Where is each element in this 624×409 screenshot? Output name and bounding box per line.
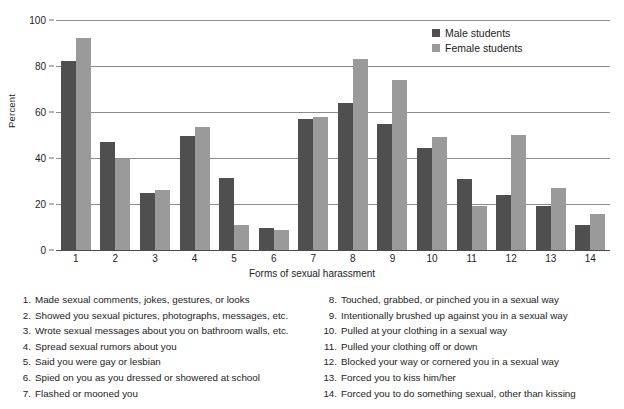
category-key-item: 8.Touched, grabbed, or pinched you in a … xyxy=(320,292,624,308)
x-axis-tick-label: 12 xyxy=(491,253,531,264)
category-key-item: 5.Said you were gay or lesbian xyxy=(14,354,312,370)
bar xyxy=(180,136,195,250)
category-key-number: 11. xyxy=(320,339,337,355)
bar xyxy=(61,61,76,250)
plot-area: Percent 020406080100 1234567891011121314… xyxy=(0,0,624,290)
category-key-text: Spread sexual rumors about you xyxy=(35,339,312,355)
bar-group xyxy=(175,20,215,250)
category-key-item: 12.Blocked your way or cornered you in a… xyxy=(320,354,624,370)
grouped-bar-chart: Percent 020406080100 1234567891011121314… xyxy=(0,0,624,409)
bar xyxy=(298,119,313,250)
x-axis-tick-labels: 1234567891011121314 xyxy=(56,253,610,264)
bar-group xyxy=(56,20,96,250)
legend-label: Male students xyxy=(445,27,510,39)
category-key-number: 10. xyxy=(320,323,337,339)
bar xyxy=(575,225,590,250)
bar-group xyxy=(293,20,333,250)
y-axis-tick-mark xyxy=(49,158,54,159)
y-axis-tick-mark xyxy=(49,204,54,205)
x-axis-tick-label: 5 xyxy=(214,253,254,264)
x-axis-tick-label: 2 xyxy=(96,253,136,264)
category-key-number: 1. xyxy=(14,292,31,308)
bar xyxy=(313,117,328,250)
category-key-number: 14. xyxy=(320,386,337,402)
y-axis-tick-mark xyxy=(49,66,54,67)
bar xyxy=(234,225,249,250)
bar-group xyxy=(135,20,175,250)
bar xyxy=(496,195,511,250)
bar xyxy=(115,159,130,250)
x-axis-tick-label: 3 xyxy=(135,253,175,264)
bar-group xyxy=(452,20,492,250)
bar xyxy=(472,206,487,250)
x-axis-tick-label: 11 xyxy=(452,253,492,264)
category-key: 1.Made sexual comments, jokes, gestures,… xyxy=(0,292,624,409)
bar-group xyxy=(531,20,571,250)
bar xyxy=(551,188,566,250)
category-key-number: 4. xyxy=(14,339,31,355)
category-key-item: 11.Pulled your clothing off or down xyxy=(320,339,624,355)
bar-group xyxy=(254,20,294,250)
category-key-item: 2.Showed you sexual pictures, photograph… xyxy=(14,308,312,324)
x-axis-tick-label: 13 xyxy=(531,253,571,264)
legend-swatch-icon xyxy=(432,44,440,52)
bar-group xyxy=(333,20,373,250)
category-key-column-left: 1.Made sexual comments, jokes, gestures,… xyxy=(0,292,312,409)
category-key-item: 4.Spread sexual rumors about you xyxy=(14,339,312,355)
legend-label: Female students xyxy=(445,42,523,54)
bar xyxy=(155,190,170,250)
bar xyxy=(457,179,472,250)
category-key-item: 9.Intentionally brushed up against you i… xyxy=(320,308,624,324)
bar xyxy=(417,148,432,250)
bar-group xyxy=(373,20,413,250)
category-key-text: Said you were gay or lesbian xyxy=(35,354,312,370)
bar-group xyxy=(96,20,136,250)
category-key-text: Wrote sexual messages about you on bathr… xyxy=(35,323,312,339)
category-key-item: 14.Forced you to do something sexual, ot… xyxy=(320,386,624,402)
y-axis-tick-label: 80 xyxy=(0,61,46,72)
bar-group xyxy=(491,20,531,250)
category-key-text: Touched, grabbed, or pinched you in a se… xyxy=(341,292,624,308)
bar xyxy=(590,214,605,250)
bar xyxy=(377,124,392,251)
y-axis-tick-mark xyxy=(49,112,54,113)
bar-group xyxy=(571,20,611,250)
category-key-text: Pulled your clothing off or down xyxy=(341,339,624,355)
x-axis-tick-label: 14 xyxy=(571,253,611,264)
y-axis-tick-label: 40 xyxy=(0,153,46,164)
bar xyxy=(274,230,289,250)
bar xyxy=(353,59,368,250)
bar xyxy=(140,193,155,251)
category-key-column-right: 8.Touched, grabbed, or pinched you in a … xyxy=(312,292,624,409)
x-axis-tick-label: 8 xyxy=(333,253,373,264)
x-axis-tick-label: 4 xyxy=(175,253,215,264)
y-axis-tick-mark xyxy=(49,250,54,251)
category-key-number: 3. xyxy=(14,323,31,339)
legend-item: Male students xyxy=(432,27,523,39)
bar xyxy=(392,80,407,250)
y-axis-tick-label: 0 xyxy=(0,245,46,256)
y-axis-tick-label: 60 xyxy=(0,107,46,118)
category-key-number: 5. xyxy=(14,354,31,370)
category-key-item: 13.Forced you to kiss him/her xyxy=(320,370,624,386)
bar xyxy=(432,137,447,250)
bar-group xyxy=(412,20,452,250)
bars-container xyxy=(56,20,610,250)
category-key-item: 1.Made sexual comments, jokes, gestures,… xyxy=(14,292,312,308)
bar xyxy=(219,178,234,250)
x-axis-line xyxy=(56,250,610,251)
bar xyxy=(76,38,91,250)
bar xyxy=(511,135,526,250)
x-axis-tick-label: 9 xyxy=(373,253,413,264)
category-key-text: Flashed or mooned you xyxy=(35,386,312,402)
category-key-text: Made sexual comments, jokes, gestures, o… xyxy=(35,292,312,308)
category-key-item: 10.Pulled at your clothing in a sexual w… xyxy=(320,323,624,339)
category-key-number: 8. xyxy=(320,292,337,308)
category-key-number: 2. xyxy=(14,308,31,324)
bar xyxy=(195,127,210,250)
y-axis-tick-mark xyxy=(49,20,54,21)
chart-legend: Male studentsFemale students xyxy=(432,27,523,54)
category-key-text: Blocked your way or cornered you in a se… xyxy=(341,354,624,370)
bar xyxy=(259,228,274,250)
y-axis-tick-label: 100 xyxy=(0,15,46,26)
